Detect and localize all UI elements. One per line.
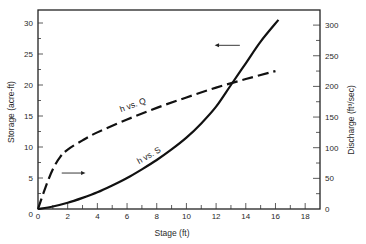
stage-storage-discharge-chart: 024681012141618 051015202530 05010015020… <box>0 0 366 244</box>
x-tick-label: 14 <box>241 212 250 221</box>
right-y-tick-label: 200 <box>325 82 339 91</box>
left-y-tick-label: 30 <box>24 19 33 28</box>
x-tick-label: 16 <box>271 212 280 221</box>
x-tick-label: 2 <box>65 212 70 221</box>
x-tick-label: 10 <box>182 212 191 221</box>
left-y-axis-ticks: 051015202530 <box>24 19 43 219</box>
left-y-tick-label: 25 <box>24 50 33 59</box>
plot-frame <box>38 10 320 209</box>
left-y-tick-label: 5 <box>29 174 34 183</box>
x-axis-title: Stage (ft) <box>155 228 190 238</box>
x-tick-label: 18 <box>301 212 310 221</box>
right-y-axis-ticks: 050100150200250300 <box>313 21 339 214</box>
h-vs-q-label: h vs. Q <box>118 95 147 114</box>
right-y-tick-label: 250 <box>325 52 339 61</box>
left-y-tick-label: 10 <box>24 143 33 152</box>
right-y-tick-label: 150 <box>325 113 339 122</box>
right-y-tick-label: 300 <box>325 21 339 30</box>
right-y-tick-label: 100 <box>325 144 339 153</box>
left-y-tick-label: 20 <box>24 81 33 90</box>
arrowhead-left-icon <box>215 43 219 47</box>
h-vs-s-curve <box>38 20 278 209</box>
h-vs-q-curve <box>38 71 275 209</box>
x-tick-label: 12 <box>212 212 221 221</box>
x-tick-label: 0 <box>36 212 41 221</box>
right-y-tick-label: 0 <box>325 205 330 214</box>
left-y-tick-label: 15 <box>24 112 33 121</box>
x-tick-label: 8 <box>155 212 160 221</box>
x-axis-ticks: 024681012141618 <box>36 203 310 221</box>
curves <box>38 20 278 209</box>
left-y-tick-label: 0 <box>29 210 34 219</box>
x-tick-label: 6 <box>125 212 130 221</box>
right-y-axis-title: Discharge (ft³/sec) <box>346 85 356 155</box>
h-vs-s-label: h vs. S <box>135 144 163 166</box>
arrowhead-right-icon <box>81 171 85 175</box>
x-tick-label: 4 <box>95 212 100 221</box>
plot-border <box>38 10 320 209</box>
right-y-tick-label: 50 <box>325 174 334 183</box>
left-y-axis-title: Storage (acre-ft) <box>6 81 16 143</box>
